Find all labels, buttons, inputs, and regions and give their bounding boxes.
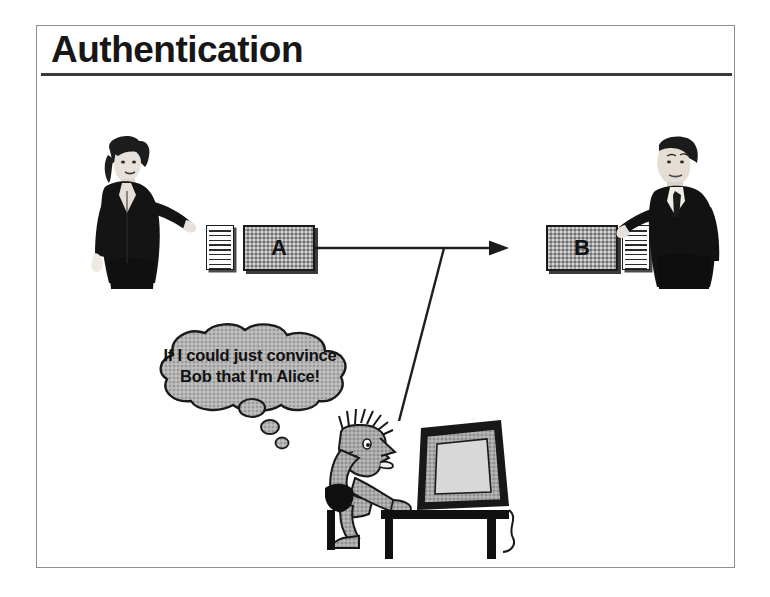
tail-bubble-small	[276, 438, 289, 449]
attacker-mouth	[380, 462, 393, 469]
arrow-right-icon	[489, 241, 509, 256]
page-title: Authentication	[51, 28, 303, 72]
node-box-a-label: A	[271, 235, 287, 261]
attacker-foot	[331, 536, 359, 548]
node-box-a[interactable]: A	[243, 225, 315, 271]
bob-person	[615, 131, 735, 291]
alice-person	[75, 131, 197, 291]
bob-trousers	[657, 254, 711, 289]
attacker-person	[325, 406, 515, 564]
tail-bubble-medium	[261, 420, 279, 434]
slide-canvas: A B	[37, 76, 734, 568]
desk-icon	[381, 510, 509, 519]
attacker-tap-line	[399, 248, 444, 421]
slide-title-bar: Authentication	[37, 26, 734, 74]
slide-frame: Authentication	[36, 25, 735, 568]
alice-skirt	[108, 258, 155, 289]
attacker-nose	[380, 438, 395, 456]
document-lines-icon	[206, 225, 234, 270]
node-box-b-label: B	[574, 235, 590, 261]
tail-bubble-large	[239, 399, 265, 417]
node-box-b[interactable]: B	[546, 225, 618, 271]
computer-monitor-icon	[417, 420, 509, 510]
